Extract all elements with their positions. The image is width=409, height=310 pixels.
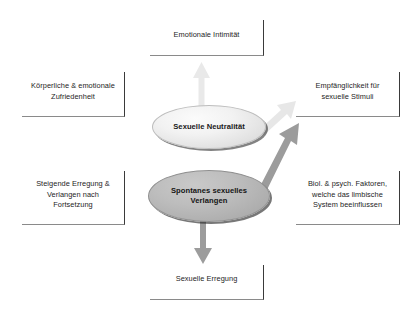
callout-label: Emotionale Intimität (156, 30, 257, 41)
arrow-neutralitaet-to-emotionale-intimitaet (193, 62, 210, 108)
callout-koerperliche-zufriedenheit: Körperliche & emotionale Zufriedenheit (22, 72, 125, 117)
node-spontanes-sexuelles-verlangen: Spontanes sexuelles Verlangen (148, 170, 270, 222)
node-sexuelle-neutralitaet: Sexuelle Neutralität (152, 105, 266, 149)
callout-steigende-erregung: Steigende Erregung & Verlangen nach Fort… (22, 171, 125, 225)
diagram-canvas: Emotionale Intimität Körperliche & emoti… (0, 0, 409, 310)
callout-label: Steigende Erregung & Verlangen nach Fort… (28, 179, 118, 211)
arrow-verlangen-to-sexuelle-erregung (194, 218, 212, 264)
callout-label: Empfänglichkeit für sexuelle Stimuli (302, 81, 393, 102)
callout-emotionale-intimitaet: Emotionale Intimität (150, 20, 264, 56)
callout-label: Sexuelle Erregung (156, 274, 257, 285)
callout-label: Biol. & psych. Faktoren, welche das limb… (302, 179, 393, 211)
node-label: Spontanes sexuelles Verlangen (171, 186, 247, 207)
callout-biol-psych-faktoren: Biol. & psych. Faktoren, welche das limb… (296, 171, 400, 225)
callout-sexuelle-erregung: Sexuelle Erregung (150, 265, 264, 300)
callout-label: Körperliche & emotionale Zufriedenheit (28, 81, 118, 102)
callout-empfaenglichkeit: Empfänglichkeit für sexuelle Stimuli (296, 72, 400, 117)
node-label: Sexuelle Neutralität (173, 122, 244, 132)
